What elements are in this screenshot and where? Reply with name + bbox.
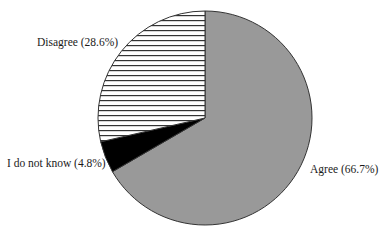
slice-label-disagree: Disagree (28.6%) [37,36,118,49]
pie-chart: Disagree (28.6%) I do not know (4.8%) Ag… [0,0,382,235]
slice-label-i-do-not-know: I do not know (4.8%) [7,157,106,170]
pie-slices [98,11,312,225]
slice-label-agree: Agree (66.7%) [310,163,378,176]
